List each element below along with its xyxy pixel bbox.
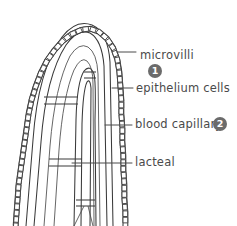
microvillus-cell bbox=[19, 159, 24, 165]
microvillus-cell bbox=[29, 95, 35, 102]
microvillus-cell bbox=[21, 146, 26, 152]
microvillus-cell bbox=[20, 153, 25, 159]
microvillus-cell bbox=[117, 76, 122, 82]
microvillus-cell bbox=[25, 115, 30, 121]
microvillus-cell bbox=[15, 197, 20, 203]
microvillus-cell bbox=[14, 217, 19, 223]
microvillus-cell bbox=[121, 172, 126, 178]
microvillus-cell bbox=[120, 128, 125, 134]
microvillus-cell bbox=[122, 179, 127, 185]
microvillus-cell bbox=[123, 211, 128, 217]
microvillus-cell bbox=[37, 71, 43, 78]
label-microvilli: microvilli bbox=[140, 50, 194, 62]
microvillus-cell bbox=[120, 134, 125, 140]
microvilli-brush-border bbox=[13, 26, 128, 226]
microvillus-cell bbox=[15, 191, 20, 197]
microvillus-cell bbox=[83, 27, 89, 32]
microvillus-cell bbox=[70, 30, 77, 36]
brush-border-outer-contour bbox=[13, 26, 128, 226]
microvillus-cell bbox=[117, 70, 122, 76]
blood-capillary-network bbox=[44, 72, 96, 226]
microvillus-cell bbox=[22, 140, 27, 146]
villus-core-outline bbox=[44, 46, 100, 226]
microvillus-cell bbox=[116, 63, 121, 69]
microvillus-cell bbox=[24, 127, 29, 133]
microvillus-cell bbox=[122, 198, 127, 204]
microvillus-cell bbox=[28, 102, 34, 108]
microvillus-cell bbox=[115, 57, 121, 63]
microvillus-cell bbox=[120, 147, 125, 153]
microvillus-cell bbox=[118, 89, 123, 95]
microvillus-cell bbox=[122, 192, 127, 198]
microvillus-cell bbox=[43, 59, 50, 66]
label-blood-capillary: blood capillary bbox=[135, 119, 222, 131]
microvillus-cell bbox=[121, 153, 125, 159]
microvillus-cell bbox=[119, 102, 124, 108]
microvillus-cell bbox=[18, 165, 23, 171]
microvillus-cell bbox=[14, 210, 19, 216]
microvillus-cell bbox=[120, 121, 125, 127]
label-epithelium-cells: epithelium cells bbox=[136, 83, 230, 95]
microvillus-cell bbox=[17, 178, 22, 184]
villus-diagram-figure: microvilli epithelium cells blood capill… bbox=[0, 0, 237, 226]
microvillus-cell bbox=[16, 185, 21, 191]
microvillus-cell bbox=[120, 140, 125, 146]
microvillus-cell bbox=[122, 185, 127, 191]
microvillus-cell bbox=[31, 89, 37, 96]
microvillus-cell bbox=[121, 166, 126, 172]
microvillus-cell bbox=[25, 121, 30, 127]
villus-drawing bbox=[0, 0, 237, 226]
microvillus-cell bbox=[14, 204, 19, 210]
microvillus-cell bbox=[122, 204, 127, 210]
microvillus-cell bbox=[119, 109, 123, 115]
label-lacteal: lacteal bbox=[135, 157, 175, 169]
badge-marker-1: 1 bbox=[148, 64, 162, 78]
microvillus-cell bbox=[13, 223, 18, 226]
microvillus-cell bbox=[119, 96, 124, 102]
microvillus-cell bbox=[17, 172, 22, 178]
microvillus-cell bbox=[123, 217, 128, 223]
microvillus-cell bbox=[75, 28, 82, 34]
microvillus-cell bbox=[26, 108, 32, 114]
microvillus-cell bbox=[119, 115, 124, 121]
badge-marker-2: 2 bbox=[213, 117, 227, 131]
microvillus-cell bbox=[23, 134, 28, 140]
